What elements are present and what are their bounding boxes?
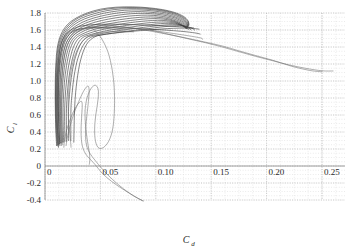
y-tick-label: 0 bbox=[37, 161, 42, 171]
x-tick-label: 0.15 bbox=[213, 167, 229, 177]
x-axis-title-subscript: d bbox=[191, 240, 195, 248]
chart-background bbox=[0, 0, 353, 252]
y-axis-title-main: C bbox=[5, 126, 16, 133]
y-tick-label: 0.2 bbox=[30, 144, 41, 154]
x-tick-label: 0.20 bbox=[269, 167, 285, 177]
y-tick-label: 0.6 bbox=[30, 110, 42, 120]
y-tick-label: -0.2 bbox=[27, 178, 41, 188]
y-tick-label: 1.8 bbox=[30, 8, 42, 18]
y-tick-label: 0.4 bbox=[30, 127, 42, 137]
y-tick-label: 1.6 bbox=[30, 25, 42, 35]
drag-polar-chart: 00.050.100.150.200.25 -0.4-0.200.20.40.6… bbox=[0, 0, 353, 252]
y-tick-label: 0.8 bbox=[30, 93, 42, 103]
chart-container: 00.050.100.150.200.25 -0.4-0.200.20.40.6… bbox=[0, 0, 353, 252]
x-tick-label: 0.10 bbox=[158, 167, 174, 177]
y-tick-label: 1.4 bbox=[30, 42, 42, 52]
x-axis-title-main: C bbox=[183, 234, 190, 245]
y-tick-label: -0.4 bbox=[27, 195, 42, 205]
y-tick-label: 1.2 bbox=[30, 59, 41, 69]
x-tick-label: 0.25 bbox=[324, 167, 340, 177]
x-tick-label: 0 bbox=[47, 167, 52, 177]
y-axis-title-subscript: l bbox=[11, 123, 19, 125]
x-tick-label: 0.05 bbox=[102, 167, 118, 177]
y-tick-label: 1.0 bbox=[30, 76, 42, 86]
